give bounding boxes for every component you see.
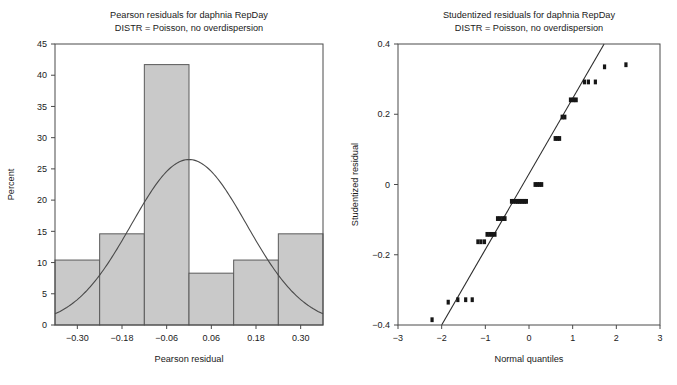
studentized-qq-svg: Studentized residuals for daphnia RepDay… (340, 0, 677, 385)
scatter-point (624, 62, 627, 67)
scatter-point (594, 80, 597, 85)
histogram-bar (234, 260, 279, 325)
histogram-bar (100, 234, 145, 325)
x-axis-tick-label: −3 (393, 333, 403, 343)
scatter-point (493, 232, 496, 237)
scatter-point (471, 297, 474, 302)
y-axis-tick-label: −0.4 (372, 320, 390, 330)
y-axis-tick-label: 20 (37, 195, 47, 205)
y-axis-tick-label: 45 (37, 39, 47, 49)
x-axis-group: −3−2−10123 (393, 325, 663, 343)
histogram-bar (278, 234, 323, 325)
scatter-point (603, 64, 606, 69)
y-axis-tick-label: 5 (42, 289, 47, 299)
x-axis-group: −0.30−0.18−0.060.060.180.30 (66, 325, 309, 343)
scatter-point (563, 115, 566, 120)
x-axis-tick-label: 0.30 (292, 333, 310, 343)
y-axis-tick-label: 40 (37, 70, 47, 80)
scatter-point (540, 182, 543, 187)
y-axis-tick-label: 0.2 (377, 109, 390, 119)
scatter-point (447, 300, 450, 305)
y-axis-tick-label: 10 (37, 258, 47, 268)
histogram-bar (55, 260, 100, 325)
x-axis-title: Pearson residual (155, 354, 224, 364)
y-axis-tick-label: 0.4 (377, 39, 390, 49)
y-axis-group: −0.4−0.200.20.4 (372, 39, 398, 330)
x-axis-tick-label: −0.30 (66, 333, 89, 343)
histogram-bar (189, 273, 234, 325)
scatter-point (464, 297, 467, 302)
histogram-bar (144, 65, 189, 325)
x-axis-tick-label: −0.06 (155, 333, 178, 343)
y-axis-title: Studentized residual (350, 143, 360, 226)
x-axis-tick-label: 0.06 (203, 333, 221, 343)
y-axis-tick-label: 0 (385, 180, 390, 190)
scatter-point (525, 199, 528, 204)
x-axis-tick-label: 1 (570, 333, 575, 343)
y-axis-tick-label: 15 (37, 227, 47, 237)
y-axis-tick-label: 35 (37, 102, 47, 112)
histogram-bars-group (55, 65, 323, 325)
x-axis-tick-label: −0.18 (111, 333, 134, 343)
scatter-point (503, 216, 506, 221)
scatter-point (569, 97, 572, 102)
y-axis-group: 051015202530354045 (37, 39, 55, 330)
chart-subtitle-line2: DISTR = Poisson, no overdispersion (455, 23, 603, 33)
x-axis-tick-label: −1 (480, 333, 490, 343)
scatter-point (456, 297, 459, 302)
scatter-point (558, 136, 561, 141)
studentized-residual-qq-panel: Studentized residuals for daphnia RepDay… (340, 0, 677, 385)
y-axis-tick-label: −0.2 (372, 250, 390, 260)
plot-frame (398, 44, 660, 325)
x-axis-tick-label: 0.18 (247, 333, 265, 343)
x-axis-tick-label: −2 (437, 333, 447, 343)
scatter-point (430, 317, 433, 322)
y-axis-title: Percent (6, 168, 16, 200)
y-axis-tick-label: 25 (37, 164, 47, 174)
chart-title-line1: Pearson residuals for daphnia RepDay (110, 10, 268, 20)
chart-subtitle-line2: DISTR = Poisson, no overdispersion (115, 23, 263, 33)
scatter-points-group (430, 62, 627, 322)
y-axis-tick-label: 30 (37, 133, 47, 143)
figure-container: Pearson residuals for daphnia RepDayDIST… (0, 0, 677, 385)
scatter-point (479, 239, 482, 244)
x-axis-title: Normal quantiles (495, 354, 564, 364)
x-axis-tick-label: 3 (657, 333, 662, 343)
normal-reference-line (442, 44, 604, 325)
scatter-point (587, 80, 590, 85)
scatter-point (575, 97, 578, 102)
y-axis-tick-label: 0 (42, 320, 47, 330)
x-axis-tick-label: 2 (614, 333, 619, 343)
scatter-point (583, 80, 586, 85)
pearson-histogram-svg: Pearson residuals for daphnia RepDayDIST… (0, 0, 340, 385)
chart-title-line1: Studentized residuals for daphnia RepDay (443, 10, 616, 20)
scatter-point (476, 239, 479, 244)
x-axis-tick-label: 0 (526, 333, 531, 343)
pearson-residual-histogram-panel: Pearson residuals for daphnia RepDayDIST… (0, 0, 340, 385)
scatter-point (483, 239, 486, 244)
